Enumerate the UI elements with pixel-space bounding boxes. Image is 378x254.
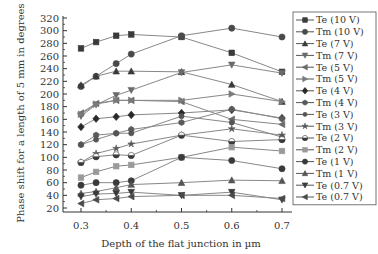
data-point-marker bbox=[78, 46, 84, 52]
data-point-marker bbox=[279, 34, 285, 40]
y-tick-label: 300 bbox=[40, 25, 59, 36]
legend-label: Tm (1 V) bbox=[316, 168, 358, 179]
y-tick-label: 240 bbox=[40, 63, 59, 74]
y-tick-label: 160 bbox=[40, 114, 59, 125]
x-tick-label: 0.6 bbox=[224, 220, 240, 231]
legend-label: Te (1 V) bbox=[316, 156, 354, 167]
data-point-marker bbox=[229, 50, 235, 56]
data-point-marker bbox=[78, 194, 85, 200]
x-tick-label: 0.7 bbox=[274, 220, 290, 231]
data-point-marker bbox=[178, 33, 184, 39]
legend-label: Te (3 V) bbox=[316, 109, 354, 120]
legend-label: Tm (2 V) bbox=[316, 144, 358, 155]
y-tick-label: 280 bbox=[40, 38, 59, 49]
series-tm-10-v bbox=[78, 25, 285, 89]
data-point-marker bbox=[78, 142, 83, 147]
legend-label: Tm (10 V) bbox=[316, 26, 364, 37]
data-point-marker bbox=[229, 106, 234, 112]
data-point-marker bbox=[113, 163, 119, 169]
data-point-marker bbox=[303, 18, 308, 23]
data-point-marker bbox=[229, 157, 235, 163]
data-point-marker bbox=[93, 115, 100, 123]
legend-label: Te (0.7 V) bbox=[316, 191, 363, 202]
data-point-marker bbox=[302, 159, 307, 164]
data-point-marker bbox=[113, 145, 120, 152]
legend: Te (10 V)Tm (10 V)Te (7 V)Tm (7 V)Te (5 … bbox=[293, 12, 376, 205]
data-point-marker bbox=[93, 157, 99, 160]
data-point-marker bbox=[128, 51, 134, 57]
data-point-marker bbox=[279, 140, 285, 143]
data-point-marker bbox=[128, 140, 135, 147]
series-te-0-7-v bbox=[78, 192, 285, 207]
data-point-marker bbox=[228, 125, 235, 132]
line-chart: 2040608010012014016018020022024026028030… bbox=[0, 0, 378, 254]
legend-label: Tm (3 V) bbox=[316, 121, 358, 132]
legend-label: Te (10 V) bbox=[316, 14, 360, 25]
data-point-marker bbox=[229, 144, 235, 150]
y-tick-label: 20 bbox=[46, 203, 59, 214]
data-point-marker bbox=[93, 137, 98, 142]
data-point-marker bbox=[303, 112, 307, 116]
data-point-marker bbox=[113, 61, 119, 67]
legend-label: Tm (5 V) bbox=[316, 73, 358, 84]
legend-label: Tm (4 V) bbox=[316, 97, 358, 108]
data-point-marker bbox=[78, 123, 85, 131]
y-tick-label: 100 bbox=[40, 152, 59, 163]
data-point-marker bbox=[279, 166, 285, 172]
data-point-marker bbox=[179, 119, 184, 125]
x-tick-label: 0.4 bbox=[123, 220, 139, 231]
data-point-marker bbox=[279, 116, 284, 122]
data-point-marker bbox=[303, 100, 308, 105]
x-tick-label: 0.3 bbox=[73, 220, 89, 231]
data-point-marker bbox=[114, 131, 119, 136]
legend-label: Te (7 V) bbox=[316, 38, 354, 49]
data-point-marker bbox=[93, 39, 99, 45]
data-point-marker bbox=[229, 91, 235, 98]
data-point-marker bbox=[179, 114, 184, 119]
legend-label: Te (4 V) bbox=[316, 85, 354, 96]
data-point-marker bbox=[113, 33, 119, 39]
plot-area bbox=[78, 25, 286, 207]
data-point-marker bbox=[93, 180, 99, 186]
series-te-3-v bbox=[78, 114, 284, 148]
y-tick-label: 60 bbox=[46, 177, 59, 188]
data-point-marker bbox=[178, 154, 184, 160]
data-point-marker bbox=[302, 138, 307, 141]
data-point-marker bbox=[279, 121, 285, 128]
data-point-marker bbox=[113, 113, 120, 121]
y-tick-label: 320 bbox=[40, 13, 59, 24]
data-point-marker bbox=[78, 182, 84, 188]
y-tick-label: 200 bbox=[40, 89, 59, 100]
data-point-marker bbox=[78, 175, 84, 181]
data-point-marker bbox=[129, 131, 134, 136]
x-tick-label: 0.5 bbox=[174, 220, 190, 231]
data-point-marker bbox=[128, 162, 134, 168]
data-point-marker bbox=[113, 155, 119, 158]
y-tick-label: 180 bbox=[40, 101, 59, 112]
series-line bbox=[81, 147, 282, 177]
data-point-marker bbox=[178, 135, 184, 138]
y-tick-label: 120 bbox=[40, 139, 59, 150]
y-axis-title: Phase shift for a length of 5 mm in degr… bbox=[15, 3, 26, 222]
legend-label: Te (2 V) bbox=[316, 132, 354, 143]
legend-label: Tm (7 V) bbox=[316, 50, 358, 61]
y-tick-label: 140 bbox=[40, 127, 59, 138]
legend-label: Te (5 V) bbox=[316, 62, 354, 73]
x-axis-title: Depth of the flat junction in µm bbox=[101, 238, 261, 249]
y-tick-label: 260 bbox=[40, 51, 59, 62]
data-point-marker bbox=[128, 111, 135, 119]
data-point-marker bbox=[128, 32, 134, 38]
data-point-marker bbox=[229, 25, 235, 31]
data-point-marker bbox=[93, 169, 99, 175]
data-point-marker bbox=[78, 200, 84, 207]
data-point-marker bbox=[279, 148, 285, 154]
y-tick-label: 40 bbox=[46, 190, 59, 201]
data-point-marker bbox=[302, 29, 307, 34]
y-tick-label: 220 bbox=[40, 76, 59, 87]
data-point-marker bbox=[128, 155, 134, 158]
data-point-marker bbox=[303, 148, 308, 153]
legend-label: Te (0.7 V) bbox=[316, 180, 363, 191]
y-tick-label: 80 bbox=[46, 165, 59, 176]
